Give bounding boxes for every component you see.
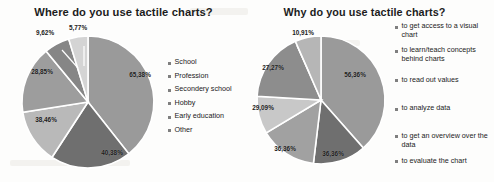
legend-label: Secondery school: [175, 84, 232, 93]
pie-svg-where: [8, 22, 168, 182]
pie-label-secondery-school: 38,46%: [35, 116, 57, 123]
legend-swatch-icon: [168, 75, 171, 78]
pie-svg-why: [245, 22, 395, 174]
pie-label-school: 65,38%: [129, 71, 151, 78]
legend-label: to learn/teach concepts behind charts: [402, 45, 494, 63]
pie-label-learn-teach-concepts: 36,36%: [322, 150, 344, 157]
legend-swatch-icon: [395, 135, 398, 138]
legend-item-early-education[interactable]: Early education: [168, 111, 232, 125]
pie-label-read-out-values: 36,36%: [274, 145, 296, 152]
legend-item-analyze-data[interactable]: to analyze data: [395, 103, 494, 114]
legend-label: Hobby: [175, 98, 196, 107]
legend-swatch-icon: [168, 116, 171, 119]
legend-label: Early education: [175, 111, 225, 120]
legend-swatch-icon: [395, 26, 398, 29]
legend-label: to analyze data: [402, 103, 451, 112]
chart-panel-where: Where do you use tactile charts? 65,38%: [0, 0, 247, 182]
legend-label: to get access to a visual chart: [402, 21, 494, 39]
legend-item-read-out-values[interactable]: to read out values: [395, 75, 494, 86]
legend-swatch-icon: [395, 79, 398, 82]
pie-chart-where: 65,38% 40,38% 38,46% 28,85% 9,62% 5,77%: [8, 22, 168, 182]
legend-label: to read out values: [402, 75, 459, 84]
legend-where: School Profession Secondery school Hobby…: [168, 57, 232, 139]
chart-panel-why: Why do you use tactile charts? 56,36% 36…: [247, 0, 494, 182]
legend-label: Other: [175, 125, 193, 134]
legend-swatch-icon: [395, 108, 398, 111]
pie-label-early-education: 9,62%: [36, 29, 54, 36]
chart-title-where: Where do you use tactile charts?: [0, 6, 247, 18]
legend-swatch-icon: [168, 89, 171, 92]
legend-why: to get access to a visual chart to learn…: [395, 21, 494, 166]
pie-label-hobby: 28,85%: [31, 68, 53, 75]
legend-swatch-icon: [168, 129, 171, 132]
pie-label-profession: 40,38%: [101, 149, 123, 156]
legend-label: School: [175, 57, 197, 66]
pie-label-access-visual-chart: 56,36%: [344, 71, 366, 78]
legend-item-overview-over-data[interactable]: to get an overview over the data: [395, 131, 494, 151]
legend-label: to evaluate the chart: [402, 156, 467, 165]
legend-item-hobby[interactable]: Hobby: [168, 98, 232, 112]
legend-swatch-icon: [168, 102, 171, 105]
legend-label: Profession: [175, 71, 209, 80]
chart-title-why: Why do you use tactile charts?: [241, 6, 488, 18]
legend-item-other[interactable]: Other: [168, 125, 232, 139]
legend-swatch-icon: [395, 50, 398, 53]
pie-label-other: 5,77%: [69, 24, 87, 31]
pie-chart-why: 56,36% 36,36% 36,36% 29,09% 27,27% 10,91…: [245, 22, 395, 174]
legend-item-school[interactable]: School: [168, 57, 232, 71]
pie-label-overview-over-data: 27,27%: [262, 64, 284, 71]
legend-swatch-icon: [395, 160, 398, 163]
legend-item-learn-teach-concepts[interactable]: to learn/teach concepts behind charts: [395, 45, 494, 75]
legend-label: to get an overview over the data: [402, 131, 494, 149]
legend-item-profession[interactable]: Profession: [168, 71, 232, 85]
pie-label-analyze-data: 29,09%: [252, 104, 274, 111]
figure-root: Where do you use tactile charts? 65,38%: [0, 0, 494, 182]
pie-label-evaluate-chart: 10,91%: [292, 29, 314, 36]
legend-item-access-visual-chart[interactable]: to get access to a visual chart: [395, 21, 494, 41]
legend-item-secondery-school[interactable]: Secondery school: [168, 84, 232, 98]
legend-swatch-icon: [168, 62, 171, 65]
legend-item-evaluate-chart[interactable]: to evaluate the chart: [395, 156, 494, 167]
